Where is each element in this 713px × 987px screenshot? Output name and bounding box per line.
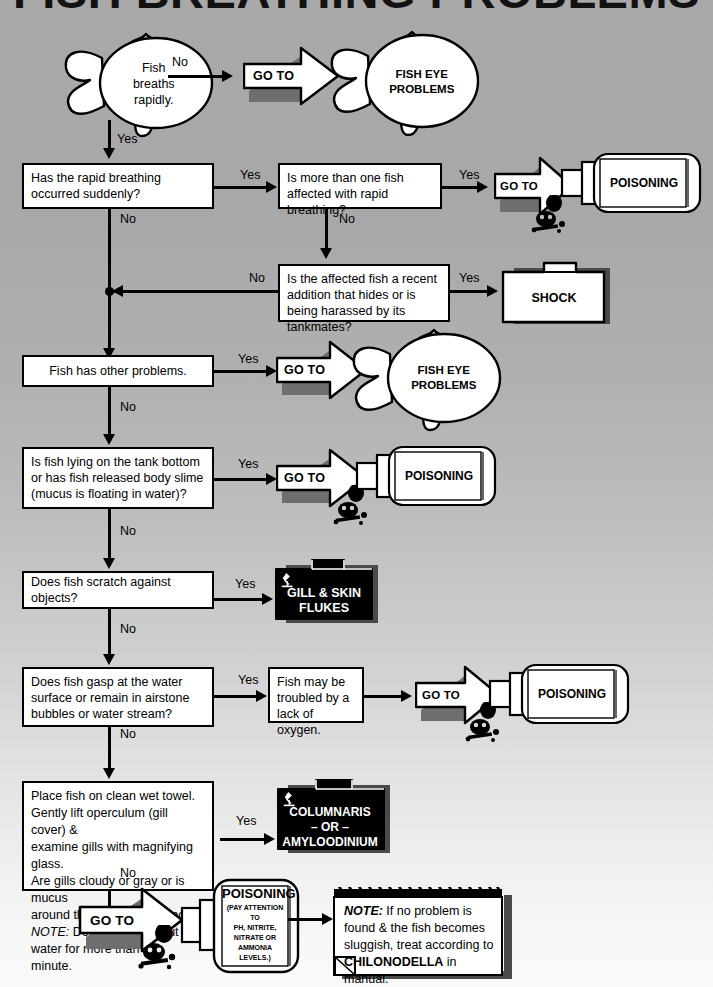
node-poisoning-3-text: POISONING [526, 687, 618, 701]
edge-label-no-q-recent: No [249, 271, 265, 285]
arrowhead-q-gasp-to-oxygen [256, 690, 267, 702]
edge-q-sudden-down [108, 209, 111, 356]
arrowhead-q-gills-to-columnaris [264, 833, 275, 845]
edge-label-no-q-more: No [339, 212, 355, 226]
node-poisoning-4-text: POISONING (PAY ATTENTION TO PH, NITRITE,… [222, 886, 288, 963]
node-q-gasp-text: Does fish gasp at the water surface or r… [31, 675, 189, 721]
goto-arrow-2-label: GO TO [500, 180, 538, 192]
box-shadow [32, 157, 220, 165]
edge-label-yes-q-lying: Yes [238, 457, 258, 471]
box-shadow [32, 349, 220, 357]
edge-label-no-start: No [172, 55, 188, 69]
edge-q-sudden-to-q-more [214, 186, 270, 189]
edge-label-yes-q-sudden: Yes [240, 168, 260, 182]
box-shadow [440, 157, 448, 199]
node-q-other-problems[interactable]: Fish has other problems. [22, 355, 214, 387]
node-fish-eye-problems-1[interactable]: FISH EYE PROBLEMS [316, 22, 484, 140]
node-poisoning-3[interactable]: POISONING [488, 661, 634, 727]
edge-q-recent-to-shock [450, 290, 492, 293]
goto-arrow-5-label: GO TO [422, 689, 460, 701]
arrowhead-q-scratch-to-flukes [262, 593, 273, 605]
box-shadow [448, 258, 456, 312]
node-poisoning-1[interactable]: POISONING [560, 150, 706, 216]
goto-arrow-4-label: GO TO [284, 471, 325, 485]
box-shadow [32, 661, 220, 669]
goto-arrow-3-label: GO TO [284, 363, 325, 377]
node-poisoning-2-text: POISONING [393, 469, 485, 483]
edge-q-recent-to-merge [112, 290, 280, 293]
node-poisoning-4[interactable]: POISONING (PAY ATTENTION TO PH, NITRITE,… [180, 876, 310, 976]
node-q-scratch-text: Does fish scratch against objects? [31, 574, 205, 606]
box-shadow [212, 775, 220, 881]
edge-q-scratch-to-flukes [214, 598, 266, 601]
goto-arrow-6-label: GO TO [90, 913, 134, 928]
node-q-scratch[interactable]: Does fish scratch against objects? [22, 571, 214, 609]
edge-q-other-to-fisheye2 [214, 370, 270, 373]
node-gill-skin-flukes-text: GILL & SKIN FLUKES [276, 586, 372, 616]
node-q-gills-note-label: NOTE: [31, 925, 69, 939]
goto-arrow-1-label: GO TO [253, 69, 294, 83]
edge-q-more-to-poisoning [442, 186, 482, 189]
box-shadow [212, 441, 220, 499]
node-q-lying-bottom[interactable]: Is fish lying on the tank bottom or has … [22, 447, 214, 509]
arrowhead-q-more-down [320, 248, 332, 259]
node-q-gills[interactable]: Place fish on clean wet towel. Gently li… [22, 781, 214, 891]
junction-merge-point [105, 287, 114, 296]
flowchart-page: FISH BREATHING PROBLEMS Fish breaths rap… [0, 0, 713, 987]
node-lack-oxygen-text: Fish may be troubled by a lack of oxygen… [277, 675, 349, 737]
edge-label-no-q-gills: No [120, 866, 136, 880]
node-columnaris[interactable]: COLUMNARIS – OR – AMYLOODINIUM [276, 775, 396, 857]
edge-q-lying-to-poisoning [214, 478, 270, 481]
edge-label-no-q-gasp: No [120, 727, 136, 741]
edge-label-yes-start: Yes [117, 132, 137, 146]
arrowhead-q-recent-to-shock [487, 285, 498, 297]
node-q-lying-bottom-text: Is fish lying on the tank bottom or has … [31, 455, 203, 501]
node-gill-skin-flukes[interactable]: GILL & SKIN FLUKES [274, 555, 384, 627]
box-shadow [212, 157, 220, 199]
node-shock-text: SHOCK [504, 291, 604, 306]
node-shock[interactable]: SHOCK [500, 258, 618, 328]
edge-label-no-q-sudden: No [120, 212, 136, 226]
box-shadow [212, 565, 220, 599]
arrowhead-q-sudden-to-q-more [266, 181, 277, 193]
node-note-text: NOTE: If no problem is found & the fish … [344, 903, 500, 987]
box-shadow [212, 661, 220, 717]
edge-label-yes-q-recent: Yes [459, 271, 479, 285]
arrowhead-q-more-to-poisoning [477, 181, 488, 193]
node-q-gills-line1: Place fish on clean wet towel. [31, 788, 205, 805]
node-lack-oxygen[interactable]: Fish may be troubled by a lack of oxygen… [268, 667, 364, 723]
node-poisoning-1-text: POISONING [598, 176, 690, 190]
arrowhead-q-scratch-down [103, 654, 115, 665]
node-fish-eye-problems-1-text: FISH EYE PROBLEMS [366, 67, 478, 97]
edge-label-yes-q-gills: Yes [236, 814, 256, 828]
box-shadow [288, 157, 448, 165]
edge-label-yes-q-other: Yes [238, 352, 258, 366]
node-columnaris-text: COLUMNARIS – OR – AMYLOODINIUM [276, 805, 384, 850]
node-q-more-than-one-text: Is more than one fish affected with rapi… [287, 171, 404, 217]
arrowhead-start-to-fisheye [222, 70, 233, 82]
box-shadow [32, 565, 220, 573]
node-q-sudden-text: Has the rapid breathing occurred suddenl… [31, 171, 161, 201]
node-q-other-problems-text: Fish has other problems. [49, 363, 187, 379]
node-note[interactable]: NOTE: If no problem is found & the fish … [330, 885, 520, 983]
arrowhead-q-lying-down [103, 558, 115, 569]
edge-label-yes-q-gasp: Yes [238, 673, 258, 687]
box-shadow [288, 258, 456, 266]
edge-label-no-q-lying: No [120, 524, 136, 538]
edge-label-yes-q-scratch: Yes [235, 577, 255, 591]
node-q-gills-line2: Gently lift operculum (gill cover) & [31, 805, 205, 839]
box-shadow [32, 775, 220, 783]
node-poisoning-2[interactable]: POISONING [355, 443, 501, 509]
arrowhead-q-other-down [103, 434, 115, 445]
node-fish-eye-problems-2[interactable]: FISH EYE PROBLEMS [340, 322, 508, 432]
node-fish-eye-problems-2-text: FISH EYE PROBLEMS [388, 363, 500, 393]
node-q-gasp[interactable]: Does fish gasp at the water surface or r… [22, 667, 214, 727]
node-q-sudden[interactable]: Has the rapid breathing occurred suddenl… [22, 163, 214, 209]
page-title: FISH BREATHING PROBLEMS [0, 0, 713, 19]
edge-label-no-q-scratch: No [120, 622, 136, 636]
node-q-more-than-one[interactable]: Is more than one fish affected with rapi… [278, 163, 442, 209]
edge-label-no-q-other: No [120, 400, 136, 414]
node-q-recent-addition[interactable]: Is the affected fish a recent addition t… [278, 264, 450, 322]
edge-oxygen-to-poisoning [364, 695, 406, 698]
arrowhead-q-gasp-down [103, 768, 115, 779]
